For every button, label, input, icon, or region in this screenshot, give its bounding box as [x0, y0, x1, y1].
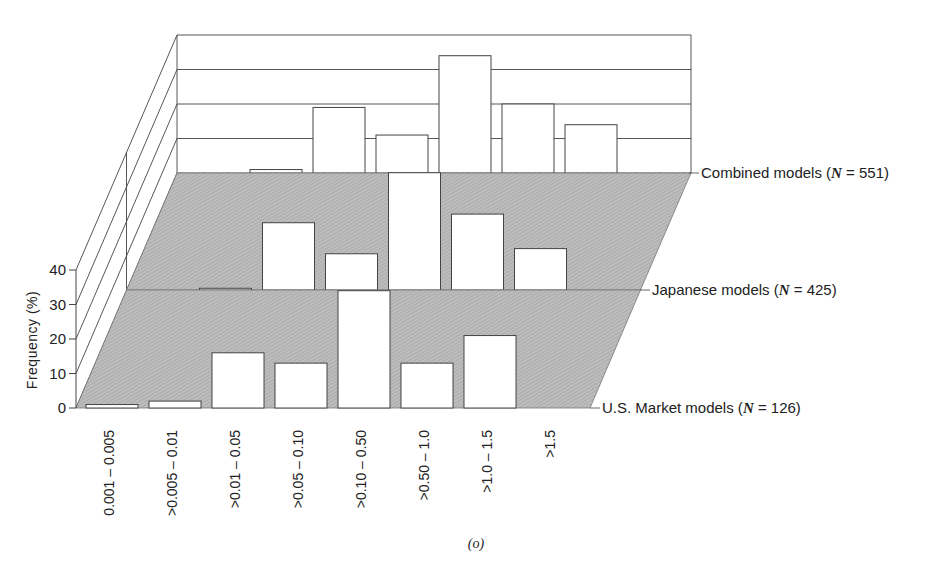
bar-japanese-models-5 [452, 214, 504, 290]
bar-combined-models-2 [313, 107, 365, 173]
bar-combined-models-6 [565, 125, 617, 173]
series-label-0: U.S. Market models (N = 126) [602, 399, 801, 416]
category-label: 0.001 – 0.005 [101, 430, 117, 516]
bar-combined-models-3 [376, 135, 428, 173]
bar-japanese-models-4 [389, 173, 441, 290]
bar-japanese-models-3 [326, 254, 378, 290]
bar-u-s-market-models-5 [401, 363, 453, 408]
category-label: >0.50 – 1.0 [416, 430, 432, 501]
category-label: >1.0 – 1.5 [479, 430, 495, 493]
series-label-1: Japanese models (N = 425) [652, 281, 837, 298]
bar-combined-models-1 [250, 170, 302, 173]
bar-u-s-market-models-4 [338, 291, 390, 408]
category-labels: 0.001 – 0.005>0.005 – 0.01>0.01 – 0.05>0… [101, 430, 558, 516]
bar-japanese-models-6 [515, 249, 567, 290]
y-axis: Frequency (%) 010203040 [24, 261, 76, 416]
bar-u-s-market-models-6 [464, 336, 516, 408]
chart-panels [76, 56, 691, 408]
bar-u-s-market-models-0 [86, 405, 138, 408]
series-label-2: Combined models (N = 551) [701, 164, 889, 181]
panel-us [76, 290, 641, 408]
panel-japanese [127, 173, 692, 290]
y-tick-label: 30 [49, 296, 66, 313]
y-tick-label: 0 [58, 399, 66, 416]
panel-combined [250, 56, 617, 173]
bar-u-s-market-models-1 [149, 401, 201, 408]
bar-japanese-models-2 [263, 223, 315, 290]
category-label: >0.05 – 0.10 [290, 430, 306, 508]
figure-caption: (o) [468, 536, 485, 552]
bar-combined-models-5 [502, 104, 554, 173]
y-tick-label: 40 [49, 261, 66, 278]
y-tick-label: 20 [49, 330, 66, 347]
bar-u-s-market-models-2 [212, 353, 264, 408]
y-axis-title: Frequency (%) [24, 291, 40, 389]
y-tick-label: 10 [49, 365, 66, 382]
category-label: >0.10 – 0.50 [353, 430, 369, 508]
chart: Frequency (%) 010203040 0.001 – 0.005>0.… [0, 0, 939, 561]
bar-u-s-market-models-3 [275, 363, 327, 408]
category-label: >0.005 – 0.01 [164, 430, 180, 516]
bar-combined-models-4 [439, 56, 491, 173]
category-label: >0.01 – 0.05 [227, 430, 243, 508]
category-label: >1.5 [542, 430, 558, 458]
